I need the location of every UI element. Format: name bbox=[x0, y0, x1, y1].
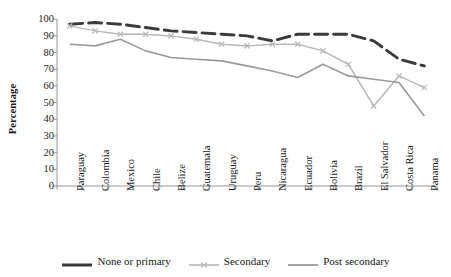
x-axis-tick-labels: ParaguayColombiaMexicoChileBelizeGuatema… bbox=[0, 0, 451, 277]
x-axis-tick-label: Panama bbox=[429, 158, 440, 191]
x-axis-tick-label: Bolivia bbox=[328, 160, 339, 191]
legend-label: Secondary bbox=[224, 255, 270, 267]
x-axis-tick-label: Guatemala bbox=[201, 146, 212, 191]
legend-label: None or primary bbox=[97, 255, 170, 267]
x-axis-tick-label: Paraguay bbox=[75, 152, 86, 191]
line-chart: Percentage 0102030405060708090100 Paragu… bbox=[0, 0, 451, 277]
x-axis-tick-label: Chile bbox=[151, 168, 162, 191]
x-axis-tick-label: Costa Rica bbox=[404, 145, 415, 191]
legend-item[interactable]: Secondary bbox=[188, 255, 270, 267]
legend-item[interactable]: None or primary bbox=[61, 255, 170, 267]
chart-legend: None or primarySecondaryPost secondary bbox=[0, 250, 451, 272]
x-axis-tick-label: Belize bbox=[176, 164, 187, 191]
x-axis-tick-label: Colombia bbox=[100, 150, 111, 191]
x-axis-tick-label: El Salvador bbox=[379, 142, 390, 191]
dark-dashed-line-swatch bbox=[61, 256, 93, 266]
light-marker-line-swatch bbox=[188, 256, 220, 266]
x-axis-tick-label: Uruguay bbox=[227, 154, 238, 191]
x-axis-tick-label: Mexico bbox=[125, 159, 136, 191]
x-axis-tick-label: Brazil bbox=[353, 165, 364, 191]
legend-item[interactable]: Post secondary bbox=[287, 255, 389, 267]
legend-label: Post secondary bbox=[323, 255, 389, 267]
x-axis-tick-label: Peru bbox=[252, 172, 263, 191]
x-axis-tick-label: Ecuador bbox=[303, 156, 314, 191]
gray-line-swatch bbox=[287, 256, 319, 266]
x-axis-tick-label: Nicaragua bbox=[277, 148, 288, 191]
